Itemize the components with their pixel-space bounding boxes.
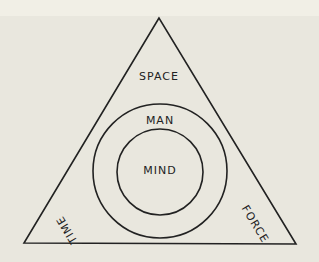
label-time: TIME	[54, 213, 81, 247]
label-man: MAN	[146, 114, 174, 127]
label-mind: MIND	[143, 164, 176, 177]
triangle-diagram: SPACE MAN MIND TIME FORCE	[0, 0, 319, 262]
label-space: SPACE	[139, 70, 179, 83]
label-force: FORCE	[239, 203, 272, 245]
